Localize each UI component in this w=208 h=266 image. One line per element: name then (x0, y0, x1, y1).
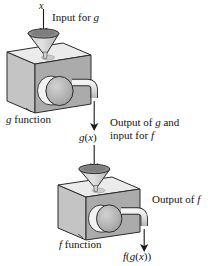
label-input-for-g: Input for g (52, 11, 99, 24)
g-knob-face (46, 76, 73, 105)
label-output-of-f: Output of f (152, 193, 200, 206)
label-g-function: g function (6, 113, 51, 126)
g-funnel-rim-inner (32, 30, 55, 36)
label-input-x: x (39, 0, 43, 13)
g-funnel-stem (43, 52, 47, 58)
label-output-of-g: Output of g andinput for f (110, 116, 179, 141)
machine-f (0, 164, 144, 240)
f-funnel-rim-inner (83, 166, 106, 172)
label-g-of-x: g(x) (79, 131, 97, 144)
label-f-of-g-of-x: f(g(x)) (123, 250, 151, 263)
f-knob-face (97, 205, 122, 232)
f-funnel-stem (94, 186, 98, 192)
figure-canvas: x Input for g g function g(x) Output of … (0, 0, 208, 266)
machine-g (7, 9, 94, 113)
label-f-function: f function (59, 238, 101, 251)
